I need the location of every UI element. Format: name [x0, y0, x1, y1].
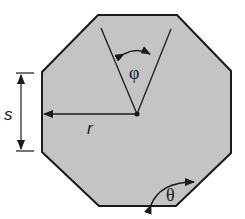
octagon-shape	[42, 15, 231, 206]
octagon-diagram: s r φ θ	[0, 0, 245, 219]
side-length-label: s	[4, 105, 13, 124]
theta-label: θ	[166, 185, 175, 205]
phi-label: φ	[129, 63, 139, 83]
